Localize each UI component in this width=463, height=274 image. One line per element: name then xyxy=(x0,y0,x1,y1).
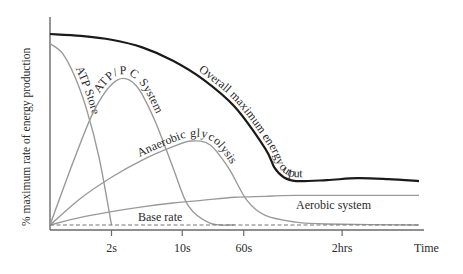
curve-overall-maximum-energy-output-label: Overall maximum energy output xyxy=(196,62,303,180)
energy-systems-chart: 2s10s60s2hrs Overall maximum energy outp… xyxy=(0,0,463,274)
x-tick-label-2hrs: 2hrs xyxy=(332,241,353,255)
x-tick-label-10s: 10s xyxy=(174,241,191,255)
x-tick-label-2s: 2s xyxy=(106,241,117,255)
curve-aerobic-system-label: Aerobic system xyxy=(296,198,372,212)
y-axis-label: % maximum rate of energy production xyxy=(20,47,33,226)
curve-base-rate-label: Base rate xyxy=(138,210,182,224)
curve-anaerobic-glycolysis-label: Anaerobic glycolysis xyxy=(135,126,241,167)
x-axis-label: Time xyxy=(414,241,439,255)
x-tick-label-60s: 60s xyxy=(235,241,252,255)
